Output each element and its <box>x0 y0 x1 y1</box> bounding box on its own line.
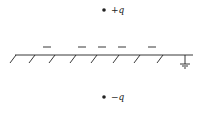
hatch-mark <box>113 55 119 63</box>
positive-charge-label: +q <box>111 5 125 15</box>
hatch-mark <box>91 55 97 63</box>
hatch-mark <box>10 55 16 63</box>
hatch-mark <box>29 55 35 63</box>
positive-charge: +q <box>102 5 124 15</box>
method-of-images-diagram: +q −q <box>0 0 201 116</box>
ground-icon <box>180 55 190 68</box>
positive-charge-dot <box>102 8 106 12</box>
image-charge: −q <box>102 92 124 102</box>
hatch-mark <box>157 55 163 63</box>
hatch-mark <box>70 55 76 63</box>
conducting-plane <box>10 55 193 63</box>
image-charge-label: −q <box>111 92 125 102</box>
image-charge-dot <box>102 95 106 99</box>
hatch-mark <box>49 55 55 63</box>
hatch-mark <box>134 55 140 63</box>
